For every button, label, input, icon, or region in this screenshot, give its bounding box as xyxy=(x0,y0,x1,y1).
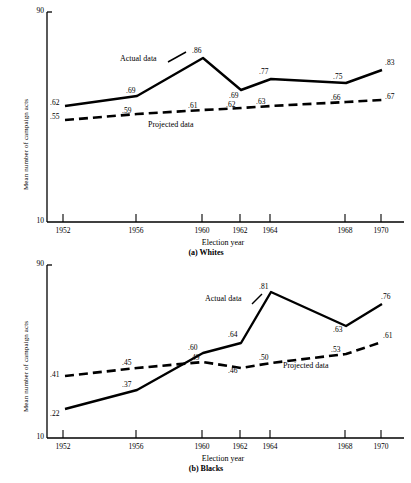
y-axis-title: Mean number of campaign acts xyxy=(22,321,30,412)
point-label-projected-1964: .50 xyxy=(259,353,268,362)
point-label-projected-1952: .41 xyxy=(50,370,59,379)
x-axis-ticks xyxy=(63,214,381,222)
point-label-actual-1970: .76 xyxy=(381,292,390,301)
plot-area-whites xyxy=(0,0,411,252)
x-tick-1970: 1970 xyxy=(364,226,398,235)
point-label-actual-1970: .83 xyxy=(385,58,394,67)
point-label-actual-1968: .63 xyxy=(333,325,342,334)
actual-data-leader-blacks xyxy=(252,294,262,304)
x-tick-1964: 1964 xyxy=(253,226,287,235)
x-tick-1960: 1960 xyxy=(185,442,219,451)
chart-panel-whites: Mean number of campaign acts 90 10 1952 … xyxy=(0,0,411,252)
point-label-actual-1956: .69 xyxy=(126,86,135,95)
x-tick-1956: 1956 xyxy=(119,226,153,235)
point-label-projected-1964: .63 xyxy=(256,97,265,106)
actual-data-annotation-whites: Actual data xyxy=(120,54,157,63)
point-label-projected-1956: .45 xyxy=(122,358,131,367)
x-tick-1952: 1952 xyxy=(46,442,80,451)
y-axis-title: Mean number of campaign acts xyxy=(22,99,30,190)
x-axis-ticks xyxy=(63,430,381,438)
series-projected-line-whites xyxy=(65,100,382,120)
point-label-actual-1962: .64 xyxy=(228,330,237,339)
point-label-actual-1960: .60 xyxy=(188,343,197,352)
x-tick-1970: 1970 xyxy=(364,442,398,451)
projected-data-annotation-whites: Projected data xyxy=(148,120,194,129)
x-axis-title: Election year xyxy=(163,454,283,463)
point-label-projected-1968: .66 xyxy=(331,93,340,102)
y-axis-min-label: 10 xyxy=(24,432,44,441)
x-axis-title: Election year xyxy=(163,238,283,247)
point-label-actual-1952: .22 xyxy=(50,409,59,418)
x-tick-1952: 1952 xyxy=(46,226,80,235)
x-tick-1960: 1960 xyxy=(185,226,219,235)
point-label-projected-1960: .61 xyxy=(188,101,197,110)
y-axis-max-label: 90 xyxy=(24,6,44,15)
point-label-actual-1964: .81 xyxy=(259,282,268,291)
panel-caption-blacks: (b) Blacks xyxy=(126,464,286,473)
y-axis-max-label: 90 xyxy=(24,259,44,268)
point-label-actual-1962: .69 xyxy=(229,91,238,100)
point-label-projected-1970: .67 xyxy=(385,92,394,101)
projected-data-annotation-blacks: Projected data xyxy=(283,361,329,370)
point-label-actual-1964: .77 xyxy=(259,67,268,76)
point-label-projected-1968: .53 xyxy=(331,345,340,354)
actual-data-leader-whites xyxy=(168,52,186,62)
point-label-actual-1968: .75 xyxy=(333,72,342,81)
x-tick-1968: 1968 xyxy=(328,226,362,235)
actual-data-annotation-blacks: Actual data xyxy=(205,294,242,303)
x-tick-1962: 1962 xyxy=(223,226,257,235)
point-label-projected-1962: .46 xyxy=(228,366,237,375)
point-label-actual-1960: .86 xyxy=(192,46,201,55)
point-label-projected-1956: .59 xyxy=(122,106,131,115)
point-label-projected-1962: .62 xyxy=(226,100,235,109)
x-tick-1956: 1956 xyxy=(119,442,153,451)
point-label-actual-1952: .62 xyxy=(50,98,59,107)
point-label-projected-1952: .55 xyxy=(50,112,59,121)
x-tick-1964: 1964 xyxy=(253,442,287,451)
y-axis-min-label: 10 xyxy=(24,216,44,225)
point-label-projected-1970: .61 xyxy=(383,331,392,340)
x-tick-1962: 1962 xyxy=(223,442,257,451)
point-label-projected-1960: .49 xyxy=(190,353,199,362)
point-label-actual-1956: .37 xyxy=(122,380,131,389)
chart-panel-blacks: Mean number of campaign acts 90 10 1952 … xyxy=(0,252,411,483)
x-tick-1968: 1968 xyxy=(328,442,362,451)
